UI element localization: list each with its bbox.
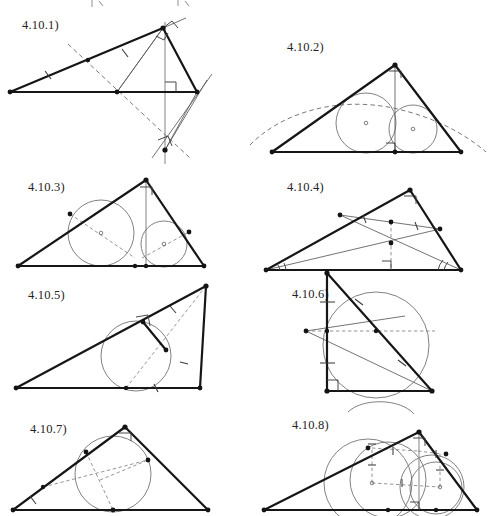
circle-center-left <box>99 231 103 235</box>
large-circle-left <box>324 439 412 516</box>
construction-ray-top-right <box>163 18 186 28</box>
dashed-radius-right-horizontal <box>418 451 442 454</box>
triangle-outline <box>16 286 206 388</box>
vertex-dot-left <box>262 508 267 513</box>
construction-ray-cross <box>152 74 212 158</box>
point-dot-below <box>162 147 167 152</box>
circle-center-left <box>364 121 368 125</box>
vertex-dot-left <box>11 508 16 513</box>
circle-center-right <box>162 242 166 246</box>
vertex-dot-left <box>270 150 275 155</box>
figure-4-10-2 <box>250 26 493 156</box>
tangency-dot-right-side <box>187 230 192 235</box>
vertex-dot-right <box>202 264 207 269</box>
vertex-dot-left <box>14 386 19 391</box>
vertex-dot-right <box>198 386 203 391</box>
top-crop-artifacts <box>0 0 493 14</box>
figure-4-10-8 <box>250 410 493 516</box>
dashed-cevian <box>126 286 206 388</box>
incircle-left <box>336 93 396 153</box>
dashed-diameter-left <box>70 214 135 258</box>
figure-4-10-4 <box>258 178 493 283</box>
incircle-right <box>141 221 187 267</box>
foot-dot <box>393 150 398 155</box>
tick-mark-left-2 <box>122 49 128 57</box>
external-point-left <box>304 329 309 334</box>
tangency-dot-base <box>111 508 116 513</box>
vertex-dot-top <box>324 270 329 275</box>
point-dot-intersection <box>389 241 394 246</box>
vertex-dot-apex <box>392 62 397 67</box>
point-dot-upper-side <box>141 320 146 325</box>
thin-connector-upper <box>306 316 405 331</box>
point-dot-left-side <box>338 213 343 218</box>
tangency-dot-left <box>84 450 89 455</box>
point-dot-right-side <box>164 348 169 353</box>
cevian-from-left-vertex <box>266 229 440 270</box>
dashed-chord-a <box>43 460 148 487</box>
crop-stroke-b <box>99 1 103 6</box>
circle-center-right <box>411 127 415 131</box>
vertex-dot-apex <box>122 424 127 429</box>
dashed-arc-through-centers <box>250 104 486 152</box>
figure-4-10-3 <box>8 170 236 280</box>
tick-mark-hyp-1 <box>355 299 363 305</box>
dashed-centre-line <box>372 483 440 487</box>
tangency-dot-left-side <box>68 212 73 217</box>
tangency-dot-right <box>146 458 151 463</box>
tangency-dot-base-left <box>133 264 137 268</box>
vertex-dot-right <box>206 508 211 513</box>
point-dot-base <box>124 386 128 390</box>
vertex-dot-left <box>8 90 13 95</box>
point-dot-right-side <box>438 227 443 232</box>
point-dot-base-mid <box>115 90 120 95</box>
figure-4-10-6 <box>280 270 493 405</box>
vertex-dot-apex <box>407 187 412 192</box>
figure-sheet: 4.10.1) <box>0 0 493 516</box>
dashed-chord-b <box>86 452 113 510</box>
figure-4-10-7 <box>8 412 230 516</box>
tick-mark-right-side <box>180 362 188 364</box>
triangle-outline <box>266 190 461 270</box>
point-dot-midseg <box>389 220 394 225</box>
incircle <box>75 436 151 512</box>
point-dot-hyp <box>374 329 378 333</box>
tangency-dot-left-side <box>366 446 371 451</box>
vertex-dot-apex <box>416 429 421 434</box>
figure-4-10-1 <box>0 18 240 168</box>
triangle-outline <box>18 180 204 266</box>
vertex-dot-right <box>459 150 464 155</box>
triangle-outline <box>13 427 208 510</box>
crop-stroke-d <box>185 1 189 6</box>
angle-arc-right-2 <box>438 260 443 270</box>
vertex-dot-right <box>195 90 200 95</box>
tangency-dot-right-side <box>444 452 449 457</box>
right-triangle-outline <box>327 273 432 391</box>
vertex-dot-left <box>264 268 269 273</box>
incircle <box>101 321 171 391</box>
vertex-dot-apex <box>203 283 208 288</box>
thin-connector-lower <box>306 331 432 391</box>
figure-4-10-5 <box>8 274 230 399</box>
vertex-dot-corner <box>324 388 329 393</box>
vertex-dot-right <box>429 388 434 393</box>
incircle-left <box>350 442 426 516</box>
triangle-outline <box>272 65 461 152</box>
tick-mark-upper-side <box>170 306 176 313</box>
tangency-dot-base-mid <box>144 264 148 268</box>
tangency-dot-base-right <box>434 508 438 512</box>
tick-mark-left-side <box>30 496 36 504</box>
point-dot-leg <box>325 329 329 333</box>
point-dot-left-side <box>86 58 90 62</box>
dashed-chord-c <box>100 460 148 480</box>
right-angle-mark-base <box>382 261 391 270</box>
point-dot-left-side <box>41 485 45 489</box>
right-angle-mark-foot <box>165 82 176 92</box>
vertex-dot-apex <box>143 177 148 182</box>
tangency-dot-base-left <box>386 508 390 512</box>
vertex-dot-left <box>16 264 21 269</box>
vertex-dot-apex <box>160 25 165 30</box>
vertex-dot-right <box>475 508 480 513</box>
